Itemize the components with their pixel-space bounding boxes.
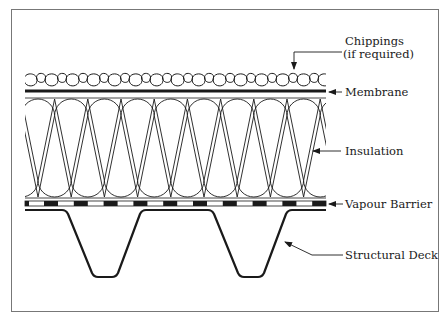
label-vapour-barrier: Vapour Barrier	[344, 197, 433, 211]
label-structural-deck: Structural Deck	[345, 248, 439, 262]
structural-deck-profile	[25, 210, 326, 277]
label-insulation: Insulation	[345, 144, 404, 158]
structural-deck-leader	[285, 242, 343, 255]
roof-section-diagram: Chippings (if required) Membrane Insulat…	[0, 0, 448, 322]
label-membrane: Membrane	[345, 85, 409, 99]
label-chippings: Chippings	[345, 34, 404, 48]
chippings-layer	[24, 73, 340, 86]
chippings-leader	[294, 52, 342, 69]
vapour-barrier-layer	[25, 198, 326, 206]
insulation-layer	[0, 99, 403, 197]
label-chippings-note: (if required)	[343, 47, 414, 61]
membrane-layer	[25, 90, 326, 99]
